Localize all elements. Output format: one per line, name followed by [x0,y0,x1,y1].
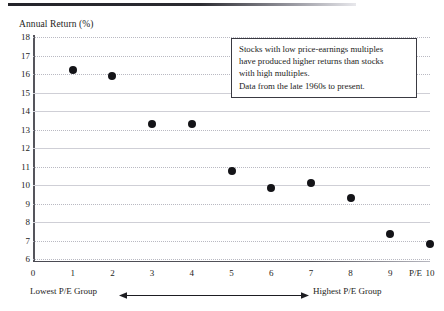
callout-line: with high multiples. [239,67,409,79]
data-point [228,167,236,175]
lowest-pe-label: Lowest P/E Group [30,286,97,296]
x-tick-label: 4 [190,268,195,278]
gridline [33,130,430,131]
data-point [426,240,434,248]
gridline [33,241,430,242]
x-tick-label: 5 [229,268,234,278]
x-tick-label: 6 [269,268,274,278]
data-point [307,179,315,187]
callout-line: Stocks with low price-earnings multiples [239,43,409,55]
data-point [148,120,156,128]
data-point [347,194,355,202]
x-tick-label: 2 [110,268,115,278]
y-tick-label: 13 [4,125,30,135]
y-tick-label: 15 [4,88,30,98]
x-axis-ticks: 012345678910 [33,268,430,282]
gridline [33,148,430,149]
x-tick-label: 7 [309,268,314,278]
chart-page: Annual Return (%) 1817161514131211109876… [0,0,444,311]
y-axis-title: Annual Return (%) [19,19,94,29]
gridline [33,259,430,260]
data-point [69,66,77,74]
x-tick-label: 0 [31,268,36,278]
x-tick-label: 9 [388,268,393,278]
x-tick-label: 3 [150,268,155,278]
x-tick-label: 1 [70,268,75,278]
gridline [33,204,430,205]
axis-direction-annotation: Lowest P/E Group Highest P/E Group [0,286,444,302]
y-tick-label: 8 [4,217,30,227]
header-rule [8,3,356,6]
callout-box: Stocks with low price-earnings multiples… [231,38,417,98]
callout-line: Data from the late 1960s to present. [239,80,409,92]
y-tick-label: 9 [4,199,30,209]
gridline [33,222,430,223]
data-point [108,72,116,80]
x-tick-label: 10 [426,268,435,278]
callout-line: have produced higher returns than stocks [239,55,409,67]
highest-pe-label: Highest P/E Group [313,286,382,296]
y-tick-label: 7 [4,236,30,246]
gridline [33,111,430,112]
y-tick-label: 10 [4,180,30,190]
y-tick-label: 17 [4,51,30,61]
x-tick-label: 8 [348,268,353,278]
x-axis-unit-label: P/E [409,268,422,278]
y-tick-label: 16 [4,69,30,79]
data-point [267,184,275,192]
x-axis-line [33,261,430,262]
y-tick-label: 6 [4,254,30,264]
y-tick-label: 11 [4,162,30,172]
y-tick-label: 14 [4,106,30,116]
y-tick-label: 18 [4,32,30,42]
data-point [188,120,196,128]
y-tick-label: 12 [4,143,30,153]
y-axis-ticks: 1817161514131211109876 [0,37,30,259]
gridline [33,185,430,186]
data-point [386,230,394,238]
double-arrow-icon [119,292,309,299]
